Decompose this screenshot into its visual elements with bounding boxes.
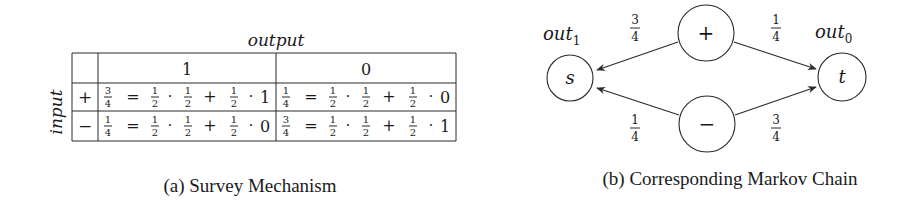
- figure-canvas: output input 1 0 + − 3 4 = 1: [0, 0, 906, 202]
- svg-text:·: ·: [249, 88, 253, 104]
- svg-text:4: 4: [105, 98, 111, 109]
- svg-text:2: 2: [231, 127, 237, 138]
- svg-text:0: 0: [260, 117, 270, 136]
- edge-minus-to-t: [735, 87, 816, 115]
- svg-text:1: 1: [330, 114, 336, 125]
- svg-text:4: 4: [772, 30, 780, 44]
- svg-text:1: 1: [231, 85, 237, 96]
- svg-text:2: 2: [330, 98, 336, 109]
- svg-text:2: 2: [185, 127, 191, 138]
- edge-plus-to-t: [734, 42, 816, 69]
- svg-text:1: 1: [631, 113, 639, 127]
- svg-text:4: 4: [772, 130, 780, 144]
- table-cell-plus-0: 1 4 = 1 2 · 1 2 + 1 2 · 0: [282, 85, 450, 109]
- svg-text:·: ·: [429, 88, 433, 104]
- svg-text:·: ·: [346, 117, 350, 133]
- svg-text:+: +: [203, 87, 216, 106]
- svg-text:0: 0: [440, 88, 450, 107]
- svg-text:2: 2: [363, 127, 369, 138]
- svg-text:1: 1: [363, 85, 369, 96]
- figure-b-caption: (b) Corresponding Markov Chain: [603, 168, 858, 190]
- figure-a-survey-mechanism: output input 1 0 + − 3 4 = 1: [46, 30, 456, 197]
- figure-a-caption: (a) Survey Mechanism: [163, 175, 336, 197]
- node-t: t: [818, 53, 866, 101]
- svg-text:1: 1: [330, 85, 336, 96]
- node-plus: +: [678, 5, 734, 61]
- svg-text:1: 1: [231, 114, 237, 125]
- svg-text:2: 2: [330, 127, 336, 138]
- svg-text:+: +: [382, 87, 395, 106]
- figure-b-markov-chain: + − s t out1 out0 3 4 1 4 1: [543, 5, 866, 190]
- svg-text:1: 1: [410, 85, 416, 96]
- svg-text:4: 4: [631, 30, 639, 44]
- svg-text:+: +: [382, 116, 395, 135]
- svg-text:1: 1: [105, 114, 111, 125]
- svg-text:1: 1: [152, 114, 158, 125]
- table-cell-minus-1: 1 4 = 1 2 · 1 2 + 1 2 · 0: [104, 114, 270, 138]
- svg-text:1: 1: [185, 114, 191, 125]
- svg-text:3: 3: [283, 114, 289, 125]
- weight-plus-to-s: 3 4: [630, 13, 640, 44]
- svg-text:+: +: [203, 116, 216, 135]
- svg-text:4: 4: [283, 127, 289, 138]
- svg-text:1: 1: [283, 85, 289, 96]
- svg-text:2: 2: [185, 98, 191, 109]
- weight-plus-to-t: 1 4: [771, 13, 781, 44]
- weight-minus-to-s: 1 4: [630, 113, 640, 144]
- svg-text:−: −: [699, 112, 716, 136]
- node-minus: −: [679, 96, 735, 152]
- out0-label: out0: [815, 21, 852, 46]
- svg-text:1: 1: [152, 85, 158, 96]
- svg-text:2: 2: [363, 98, 369, 109]
- table-cell-minus-0: 3 4 = 1 2 · 1 2 + 1 2 · 1: [282, 114, 450, 138]
- svg-text:2: 2: [152, 127, 158, 138]
- row-axis-label: input: [46, 89, 66, 134]
- svg-text:3: 3: [631, 13, 639, 27]
- weight-minus-to-t: 3 4: [771, 113, 781, 144]
- edge-minus-to-s: [597, 88, 679, 115]
- svg-text:·: ·: [429, 117, 433, 133]
- svg-text:=: =: [304, 116, 317, 135]
- node-s: s: [547, 55, 593, 101]
- svg-text:1: 1: [363, 114, 369, 125]
- row-label-minus: −: [78, 116, 92, 136]
- svg-text:2: 2: [152, 98, 158, 109]
- svg-text:4: 4: [283, 98, 289, 109]
- svg-text:·: ·: [168, 117, 172, 133]
- column-axis-label: output: [248, 30, 305, 50]
- svg-text:·: ·: [346, 88, 350, 104]
- svg-text:·: ·: [168, 88, 172, 104]
- svg-text:s: s: [565, 67, 574, 88]
- svg-text:2: 2: [231, 98, 237, 109]
- svg-text:·: ·: [249, 117, 253, 133]
- svg-text:2: 2: [410, 127, 416, 138]
- svg-text:3: 3: [772, 113, 780, 127]
- svg-text:4: 4: [631, 130, 639, 144]
- table-cell-plus-1: 3 4 = 1 2 · 1 2 + 1 2 · 1: [104, 85, 270, 109]
- svg-text:1: 1: [260, 88, 270, 107]
- svg-text:t: t: [838, 66, 846, 87]
- svg-text:4: 4: [105, 127, 111, 138]
- row-label-plus: +: [78, 87, 92, 107]
- svg-text:+: +: [698, 21, 715, 45]
- row-axis-label-group: input: [46, 89, 66, 134]
- svg-text:=: =: [126, 87, 139, 106]
- svg-text:1: 1: [185, 85, 191, 96]
- column-header-1: 1: [182, 60, 192, 79]
- svg-text:=: =: [126, 116, 139, 135]
- svg-text:1: 1: [410, 114, 416, 125]
- edge-plus-to-s: [597, 42, 678, 70]
- column-header-0: 0: [361, 60, 371, 79]
- svg-text:2: 2: [410, 98, 416, 109]
- svg-text:=: =: [304, 87, 317, 106]
- out1-label: out1: [543, 23, 580, 48]
- svg-text:1: 1: [440, 117, 450, 136]
- svg-text:1: 1: [772, 13, 780, 27]
- svg-text:3: 3: [105, 85, 111, 96]
